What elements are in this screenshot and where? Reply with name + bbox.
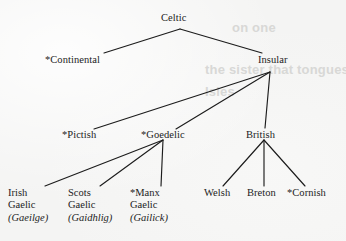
leaf-irish-gaelic-line-1: Irish bbox=[8, 187, 48, 199]
leaf-scots-gaelic-line-2: Gaelic bbox=[68, 199, 112, 211]
leaf-manx-gaelic-native-name: (Gailick) bbox=[130, 212, 168, 224]
celtic-family-tree-diagram: on one the sister that tongues of the Br… bbox=[0, 0, 346, 241]
edge-goedelic-manx bbox=[161, 140, 163, 186]
tree-edges bbox=[0, 0, 346, 241]
edge-celtic-continental bbox=[104, 29, 180, 53]
leaf-scots-gaelic: Scots Gaelic (Gaidhlig) bbox=[68, 187, 112, 224]
edge-goedelic-scots bbox=[100, 140, 163, 186]
leaf-irish-gaelic-line-2: Gaelic bbox=[8, 199, 48, 211]
edge-celtic-insular bbox=[180, 29, 262, 53]
leaf-cornish: *Cornish bbox=[287, 187, 326, 199]
leaf-breton: Breton bbox=[247, 187, 276, 199]
node-celtic: Celtic bbox=[161, 12, 186, 24]
edge-british-cornish bbox=[264, 140, 305, 186]
edge-goedelic-irish bbox=[45, 140, 163, 186]
leaf-manx-gaelic: *Manx Gaelic (Gailick) bbox=[130, 187, 168, 224]
edge-insular-goedelic bbox=[176, 72, 270, 129]
leaf-manx-gaelic-line-2: Gaelic bbox=[130, 199, 168, 211]
node-british: British bbox=[246, 129, 275, 141]
node-goedelic: *Goedelic bbox=[141, 129, 185, 141]
node-insular: Insular bbox=[258, 54, 288, 66]
leaf-welsh: Welsh bbox=[204, 187, 230, 199]
leaf-scots-gaelic-line-1: Scots bbox=[68, 187, 112, 199]
leaf-manx-gaelic-line-1: *Manx bbox=[130, 187, 168, 199]
node-continental: *Continental bbox=[45, 54, 100, 66]
leaf-irish-gaelic: Irish Gaelic (Gaeilge) bbox=[8, 187, 48, 224]
leaf-scots-gaelic-native-name: (Gaidhlig) bbox=[68, 212, 112, 224]
node-pictish: *Pictish bbox=[62, 129, 96, 141]
edge-insular-pictish bbox=[94, 72, 270, 129]
leaf-irish-gaelic-native-name: (Gaeilge) bbox=[8, 212, 48, 224]
edge-british-welsh bbox=[223, 140, 264, 186]
edge-insular-british bbox=[265, 72, 270, 128]
